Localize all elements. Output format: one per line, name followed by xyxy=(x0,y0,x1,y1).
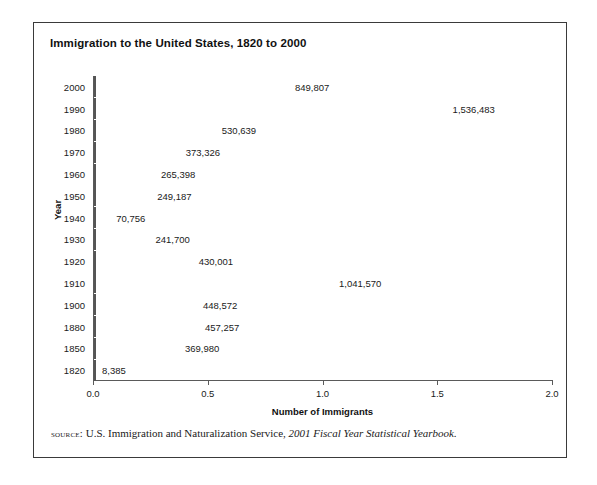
bar-value-label: 8,385 xyxy=(102,365,126,376)
y-axis-tick-label: 1980 xyxy=(64,125,85,136)
bar-value-label: 457,257 xyxy=(205,321,239,332)
y-axis-tick-label: 1940 xyxy=(64,212,85,223)
bar-row: 1920430,001 xyxy=(94,251,193,272)
x-axis-tick xyxy=(208,380,209,385)
bar-row: 19101,041,570 xyxy=(94,272,333,293)
bar xyxy=(94,294,96,315)
bar xyxy=(94,164,96,185)
bar-value-label: 1,041,570 xyxy=(339,277,381,288)
bar-value-label: 70,756 xyxy=(116,212,145,223)
x-axis-title: Number of Immigrants xyxy=(93,406,552,417)
bar-value-label: 448,572 xyxy=(203,299,237,310)
bar-value-label: 849,807 xyxy=(295,81,329,92)
y-axis-tick-label: 2000 xyxy=(64,81,85,92)
figure-frame: Immigration to the United States, 1820 t… xyxy=(33,22,567,458)
bar-row: 1950249,187 xyxy=(94,185,151,206)
bar-row: 194070,756 xyxy=(94,207,110,228)
bar-value-label: 430,001 xyxy=(199,256,233,267)
x-axis-tick xyxy=(323,380,324,385)
bar xyxy=(94,76,96,97)
y-axis-tick-label: 1820 xyxy=(64,365,85,376)
x-axis-tick xyxy=(93,380,94,385)
bar-row: 1970373,326 xyxy=(94,142,180,163)
bar xyxy=(94,338,96,359)
y-axis-tick-label: 1910 xyxy=(64,277,85,288)
bar xyxy=(94,272,96,293)
bar-row: 2000849,807 xyxy=(94,76,289,97)
y-axis-tick-label: 1900 xyxy=(64,299,85,310)
source-publication: 2001 Fiscal Year Statistical Yearbook. xyxy=(289,427,457,439)
x-axis-tick-label: 1.0 xyxy=(316,388,329,399)
x-axis-tick xyxy=(552,380,553,385)
bar-row: 1900448,572 xyxy=(94,294,197,315)
y-axis-tick-label: 1880 xyxy=(64,321,85,332)
bar-series: 2000849,80719901,536,4831980530,63919703… xyxy=(93,76,552,381)
plot-area: 2000849,80719901,536,4831980530,63919703… xyxy=(93,76,552,381)
bar xyxy=(94,316,96,337)
bar-value-label: 369,980 xyxy=(185,343,219,354)
page-title: Immigration to the United States, 1820 t… xyxy=(50,37,306,49)
bar-value-label: 1,536,483 xyxy=(453,103,495,114)
bar-value-label: 530,639 xyxy=(222,125,256,136)
x-axis-tick xyxy=(437,380,438,385)
bar xyxy=(94,251,96,272)
bar-row: 1930241,700 xyxy=(94,229,149,250)
y-axis-tick-label: 1920 xyxy=(64,256,85,267)
source-note: source: U.S. Immigration and Naturalizat… xyxy=(51,427,457,439)
bar xyxy=(94,98,96,119)
bar xyxy=(94,229,96,250)
y-axis-tick-label: 1930 xyxy=(64,234,85,245)
source-text: U.S. Immigration and Naturalization Serv… xyxy=(86,427,286,439)
bar-row: 1980530,639 xyxy=(94,120,216,141)
bar xyxy=(94,360,96,381)
y-axis-tick-label: 1850 xyxy=(64,343,85,354)
bar-row: 1850369,980 xyxy=(94,338,179,359)
y-axis-tick-label: 1960 xyxy=(64,169,85,180)
x-axis-tick-label: 0.0 xyxy=(86,388,99,399)
y-axis-tick-label: 1970 xyxy=(64,147,85,158)
bar-value-label: 373,326 xyxy=(186,147,220,158)
bar xyxy=(94,207,96,228)
y-axis-tick-label: 1950 xyxy=(64,190,85,201)
bar-row: 1960265,398 xyxy=(94,164,155,185)
bar-row: 1880457,257 xyxy=(94,316,199,337)
bar xyxy=(94,142,96,163)
bar-value-label: 249,187 xyxy=(157,190,191,201)
bar-row: 19901,536,483 xyxy=(94,98,447,119)
bar xyxy=(94,120,96,141)
x-axis-tick-label: 0.5 xyxy=(201,388,214,399)
bar-value-label: 265,398 xyxy=(161,169,195,180)
y-axis-title: Year xyxy=(52,200,63,220)
bar-row: 18208,385 xyxy=(94,360,96,381)
x-axis-tick-label: 1.5 xyxy=(431,388,444,399)
y-axis-tick-label: 1990 xyxy=(64,103,85,114)
source-label: source: xyxy=(51,428,83,439)
bar-value-label: 241,700 xyxy=(155,234,189,245)
x-axis-tick-label: 2.0 xyxy=(545,388,558,399)
bar xyxy=(94,185,96,206)
